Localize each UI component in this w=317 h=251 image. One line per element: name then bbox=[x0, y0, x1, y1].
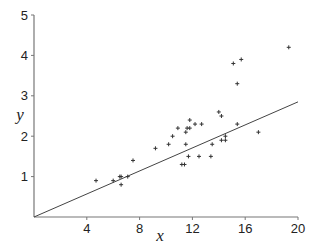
regression-line bbox=[34, 102, 298, 217]
plus-marker bbox=[235, 122, 239, 126]
plus-marker bbox=[223, 138, 227, 142]
plus-marker bbox=[188, 118, 192, 122]
y-ticks: 12345 bbox=[21, 8, 34, 185]
plus-marker bbox=[176, 126, 180, 130]
plus-marker bbox=[131, 158, 135, 162]
plus-marker bbox=[223, 134, 227, 138]
data-points bbox=[94, 45, 291, 186]
plus-marker bbox=[197, 154, 201, 158]
y-tick-label: 4 bbox=[21, 48, 28, 63]
x-axis-label: x bbox=[155, 226, 164, 245]
x-tick-label: 12 bbox=[185, 221, 199, 236]
plus-marker bbox=[186, 154, 190, 158]
plus-marker bbox=[153, 146, 157, 150]
plus-marker bbox=[239, 57, 243, 61]
plus-marker bbox=[287, 45, 291, 49]
plus-marker bbox=[167, 142, 171, 146]
plus-marker bbox=[171, 134, 175, 138]
plus-marker bbox=[200, 122, 204, 126]
x-tick-label: 20 bbox=[291, 221, 305, 236]
y-tick-label: 3 bbox=[21, 88, 28, 103]
plus-marker bbox=[184, 130, 188, 134]
axes bbox=[34, 15, 298, 217]
y-tick-label: 1 bbox=[21, 169, 28, 184]
plus-marker bbox=[219, 138, 223, 142]
plus-marker bbox=[182, 162, 186, 166]
plus-marker bbox=[209, 154, 213, 158]
plus-marker bbox=[217, 110, 221, 114]
x-ticks: 48121620 bbox=[83, 217, 305, 236]
scatter-chart: 48121620 12345 x y bbox=[0, 0, 317, 251]
plus-marker bbox=[210, 142, 214, 146]
plus-marker bbox=[188, 126, 192, 130]
fit-line bbox=[34, 102, 298, 217]
x-tick-label: 16 bbox=[238, 221, 252, 236]
plus-marker bbox=[94, 179, 98, 183]
y-axis-label: y bbox=[14, 105, 24, 124]
plus-marker bbox=[119, 183, 123, 187]
plus-marker bbox=[256, 130, 260, 134]
plus-marker bbox=[219, 114, 223, 118]
y-tick-label: 5 bbox=[21, 8, 28, 23]
plus-marker bbox=[231, 61, 235, 65]
x-tick-label: 4 bbox=[83, 221, 90, 236]
x-tick-label: 8 bbox=[136, 221, 143, 236]
y-tick-label: 2 bbox=[21, 129, 28, 144]
plus-marker bbox=[235, 82, 239, 86]
plus-marker bbox=[184, 142, 188, 146]
plus-marker bbox=[193, 122, 197, 126]
